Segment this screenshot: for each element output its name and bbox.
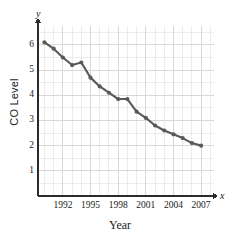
y-tick-label: 4: [25, 89, 34, 99]
y-tick-label: 3: [25, 114, 34, 124]
grid-major: [38, 26, 214, 196]
data-markers: [42, 40, 203, 147]
y-axis-label: CO Level: [8, 62, 20, 142]
x-tick-label: 1998: [105, 200, 131, 210]
y-tick-label: 6: [25, 39, 34, 49]
y-tick-label: 1: [25, 165, 34, 175]
x-axis-label: Year: [60, 218, 180, 233]
y-axis-letter: y: [36, 8, 40, 19]
chart-figure: CO Level Year y x 123456 199219951998200…: [0, 0, 232, 242]
y-tick-label: 5: [25, 64, 34, 74]
y-tick-label: 2: [25, 140, 34, 150]
x-tick-label: 2001: [133, 200, 159, 210]
x-tick-label: 1992: [50, 200, 76, 210]
x-tick-label: 1995: [78, 200, 104, 210]
x-tick-label: 2004: [160, 200, 186, 210]
x-axis-letter: x: [220, 190, 224, 201]
x-tick-label: 2007: [188, 200, 214, 210]
